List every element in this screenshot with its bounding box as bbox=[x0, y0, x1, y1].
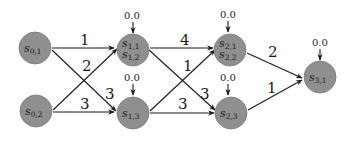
edge-label-s21-s31: 2 bbox=[268, 43, 278, 61]
node-s21-s22: s2,1 s2,2 bbox=[214, 34, 246, 66]
edge-label-s01-s13: 3 bbox=[105, 85, 115, 103]
node-s01: s0,1 bbox=[19, 32, 51, 64]
node-s13: s1,3 bbox=[117, 97, 149, 129]
init-value-s13: 0.0 bbox=[124, 72, 140, 83]
edge-label-s02-s13: 3 bbox=[80, 95, 90, 113]
node-s02: s0,2 bbox=[20, 95, 52, 127]
edge-label-s01-s11: 1 bbox=[80, 31, 90, 49]
node-s11-s12: s1,1 s1,2 bbox=[117, 34, 149, 66]
init-value-s21: 0.0 bbox=[220, 9, 236, 20]
edge-label-s23-s31: 1 bbox=[267, 79, 277, 97]
graph-diagram: 1 2 3 3 4 1 3 3 2 1 0.0 0.0 0.0 0.0 0.0 … bbox=[0, 0, 357, 141]
edge-label-s02-s11: 2 bbox=[82, 57, 92, 75]
init-value-s23: 0.0 bbox=[220, 72, 236, 83]
edge-label-s13-s21: 1 bbox=[183, 57, 193, 75]
edge-labels: 1 2 3 3 4 1 3 3 2 1 bbox=[80, 31, 278, 113]
edge-label-s11-s23: 3 bbox=[200, 85, 210, 103]
edge-label-s13-s23: 3 bbox=[178, 95, 188, 113]
init-value-s11: 0.0 bbox=[124, 10, 140, 21]
init-value-s31: 0.0 bbox=[312, 37, 328, 48]
edge-label-s11-s21: 4 bbox=[180, 31, 190, 49]
node-s23: s2,3 bbox=[215, 97, 247, 129]
node-s31: s3,1 bbox=[304, 61, 336, 93]
